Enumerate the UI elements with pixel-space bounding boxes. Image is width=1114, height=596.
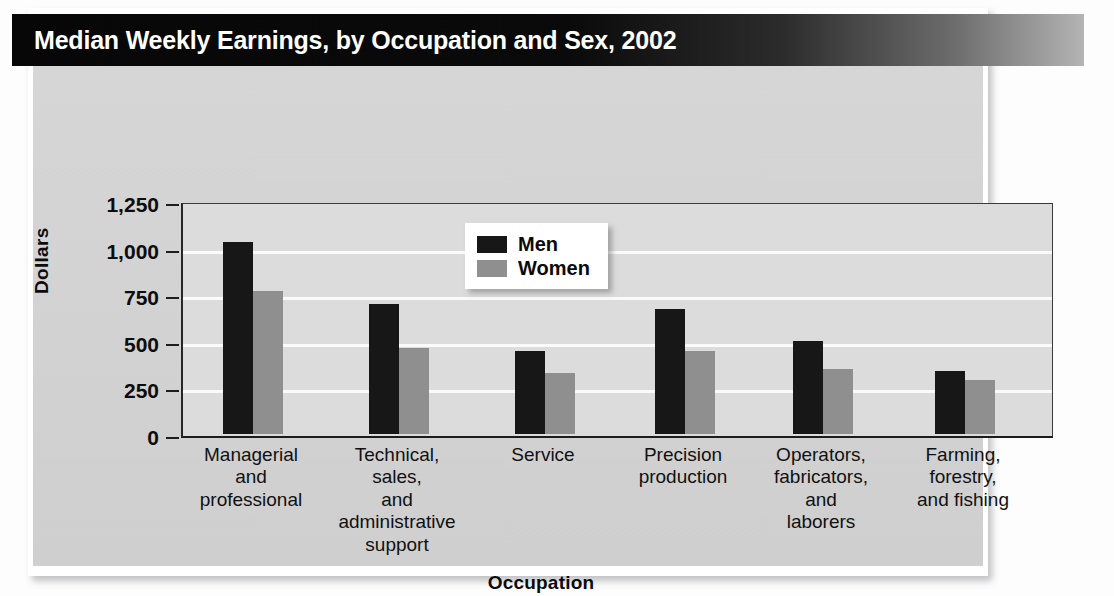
bar-group xyxy=(793,201,853,434)
x-label-line: sales, xyxy=(307,466,487,488)
bar-group xyxy=(369,201,429,434)
legend-swatch-men xyxy=(477,236,507,253)
bar-group xyxy=(223,201,283,434)
bar-women xyxy=(965,380,995,434)
y-tick-label: 500 xyxy=(87,333,159,357)
bar-women xyxy=(545,373,575,434)
y-tick-mark xyxy=(166,390,179,392)
x-label-line: administrative xyxy=(307,511,487,533)
y-axis-title: Dollars xyxy=(31,227,53,294)
x-axis-title: Occupation xyxy=(33,572,1049,594)
legend-item-women: Women xyxy=(477,256,590,280)
y-tick-mark xyxy=(166,204,179,206)
bar-women xyxy=(823,369,853,434)
bar-men xyxy=(223,242,253,434)
x-label-line: laborers xyxy=(731,511,911,533)
plot-area xyxy=(181,203,1053,438)
y-tick-mark xyxy=(166,251,179,253)
x-axis-category-label: Farming,forestry,and fishing xyxy=(873,444,1053,511)
page-background: Median Weekly Earnings, by Occupation an… xyxy=(0,0,1114,596)
bar-group xyxy=(655,201,715,434)
bar-group xyxy=(935,201,995,434)
y-tick-mark xyxy=(166,437,179,439)
legend-label-men: Men xyxy=(518,233,558,256)
y-tick-label: 0 xyxy=(87,426,159,450)
y-tick-label: 1,250 xyxy=(87,193,159,217)
bar-men xyxy=(935,371,965,434)
bar-men xyxy=(515,351,545,434)
y-tick-label: 750 xyxy=(87,286,159,310)
bar-women xyxy=(685,351,715,434)
legend-item-men: Men xyxy=(477,232,590,256)
y-tick-mark xyxy=(166,344,179,346)
bar-men xyxy=(655,309,685,434)
chart-body: Dollars 02505007501,0001,250 Men Women M… xyxy=(33,66,983,566)
x-label-line: support xyxy=(307,534,487,556)
y-tick-label: 250 xyxy=(87,379,159,403)
x-label-line: and xyxy=(307,489,487,511)
chart-title-banner: Median Weekly Earnings, by Occupation an… xyxy=(12,14,1084,66)
x-label-line: forestry, xyxy=(873,466,1053,488)
bar-men xyxy=(793,341,823,434)
bar-women xyxy=(399,348,429,434)
bars-layer xyxy=(183,204,1052,436)
y-tick-label: 1,000 xyxy=(87,240,159,264)
y-tick-mark xyxy=(166,297,179,299)
page-title: Median Weekly Earnings, by Occupation an… xyxy=(12,26,676,55)
x-label-line: Farming, xyxy=(873,444,1053,466)
plot-area-wrapper xyxy=(181,203,1053,438)
legend-label-women: Women xyxy=(518,257,590,280)
bar-men xyxy=(369,304,399,434)
chart-legend: Men Women xyxy=(465,223,608,289)
x-label-line: and fishing xyxy=(873,489,1053,511)
legend-swatch-women xyxy=(477,260,507,277)
bar-women xyxy=(253,291,283,434)
